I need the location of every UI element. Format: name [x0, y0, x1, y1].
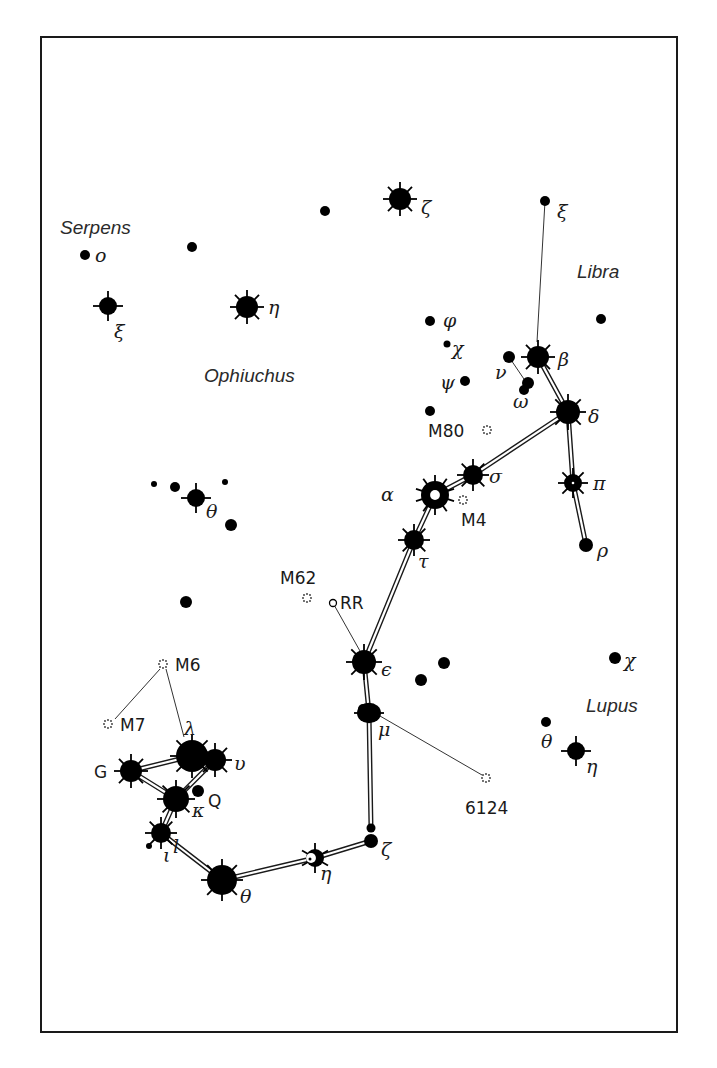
star-icon	[540, 196, 550, 206]
star-sco-delta: δ	[550, 394, 599, 430]
star-sco-mu: μ	[354, 703, 390, 740]
star-label: ζ	[381, 838, 393, 860]
star-label: π	[592, 472, 606, 494]
star-label: β	[557, 348, 569, 370]
star-icon	[187, 242, 197, 252]
star-label: δ	[588, 405, 599, 427]
star-label: ϵ	[381, 658, 392, 680]
star-label: φ	[443, 309, 457, 331]
globular-cluster-icon	[458, 495, 468, 505]
star-icon	[198, 743, 232, 777]
cluster-m80: M80	[428, 421, 492, 441]
star-oph-theta: θ	[181, 483, 218, 522]
star-ser-xi: ξ	[93, 291, 126, 342]
star-icon	[460, 376, 470, 386]
star-label: G	[94, 762, 107, 782]
figure-line	[364, 540, 414, 662]
figure-line	[473, 412, 568, 475]
deep-sky-objects: M80M4M62M6M76124	[103, 421, 508, 818]
star-oph-a	[187, 242, 197, 252]
star-icon	[225, 519, 237, 531]
cluster-label: 6124	[465, 798, 508, 818]
cluster-label: M80	[428, 421, 464, 441]
star-sco-rr: RR	[330, 593, 364, 613]
star-label: RR	[340, 593, 364, 613]
star-icon	[438, 657, 450, 669]
star-label: Q	[208, 791, 221, 811]
star-icon	[146, 843, 152, 849]
star-icon	[425, 316, 435, 326]
star-sco-tl3	[222, 479, 228, 485]
star-sco-tl1	[151, 481, 157, 487]
star-icon	[346, 644, 382, 680]
star-sco-m80star	[425, 406, 435, 416]
pointer-line	[115, 669, 160, 719]
star-label: κ	[191, 799, 205, 821]
star-icon	[230, 290, 264, 324]
star-sco-eta: η	[302, 843, 332, 884]
star-sco-chi: χ	[444, 337, 466, 359]
star-label: ξ	[557, 200, 569, 222]
star-icon	[558, 468, 588, 498]
cluster-label: M6	[175, 655, 200, 675]
star-icon	[367, 824, 376, 833]
star-chart: M80M4M62M6M76124 οξζηξφχψνωβδπρσατRRϵμζη…	[0, 0, 717, 1068]
star-icon	[444, 341, 451, 348]
star-sco-zeta-b: ζ	[364, 834, 393, 860]
star-label: θ	[541, 730, 553, 752]
star-sco-e1	[415, 674, 427, 686]
star-label: η	[586, 755, 598, 777]
star-icon	[609, 652, 621, 664]
globular-cluster-icon	[302, 593, 312, 603]
star-sco-theta: θ	[201, 859, 252, 907]
star-icon	[541, 717, 551, 727]
star-label: ψ	[440, 371, 456, 393]
star-sco-pi: π	[558, 468, 606, 498]
constellation-label-lupus: Lupus	[586, 695, 638, 716]
star-label: λ	[183, 717, 196, 739]
star-icon	[170, 482, 180, 492]
star-lup-theta: θ	[541, 717, 553, 752]
star-oph-b	[320, 206, 330, 216]
figure-line	[369, 713, 371, 828]
star-sco-alpha: α	[381, 475, 454, 515]
star-label: ρ	[596, 539, 609, 561]
star-sco-zeta-a	[367, 824, 376, 833]
star-sco-iota2	[146, 843, 152, 849]
star-lup-eta: η	[561, 736, 598, 777]
star-sco-g: G	[94, 754, 148, 788]
star-sco-psi: ψ	[440, 371, 470, 393]
star-lib-dot	[596, 314, 606, 324]
star-label: ι	[163, 844, 170, 866]
globular-cluster-icon	[158, 659, 168, 669]
star-label: χ	[450, 337, 465, 359]
star-icon	[457, 459, 489, 491]
star-label: χ	[622, 649, 637, 671]
star-label: α	[381, 483, 394, 505]
star-lup-chi: χ	[609, 649, 637, 671]
star-icon	[192, 785, 204, 797]
star-label: η	[320, 862, 332, 884]
star-sco-phi: φ	[425, 309, 457, 331]
star-icon	[222, 479, 228, 485]
star-sco-rho: ρ	[579, 538, 609, 561]
globular-cluster-icon	[103, 719, 113, 729]
star-icon	[383, 182, 417, 216]
star-sco-sigma: σ	[457, 459, 503, 491]
constellation-labels: SerpensOphiuchusLibraLupus	[60, 217, 638, 716]
star-label: υ	[234, 752, 246, 774]
star-sco-tl2	[170, 482, 180, 492]
figure-line	[573, 483, 586, 545]
star-icon	[93, 291, 123, 321]
star-label: ν	[495, 361, 507, 383]
star-icon	[180, 596, 192, 608]
star-icon	[330, 600, 337, 607]
star-oph-zeta: ζ	[383, 182, 433, 218]
star-icon	[151, 481, 157, 487]
star-sco-l: l	[173, 835, 179, 857]
star-oph-eta: η	[230, 290, 280, 324]
cluster-m4: M4	[458, 495, 486, 530]
cluster-m62: M62	[280, 568, 316, 603]
star-label: μ	[378, 718, 390, 740]
star-sco-nu: ν	[495, 351, 515, 383]
